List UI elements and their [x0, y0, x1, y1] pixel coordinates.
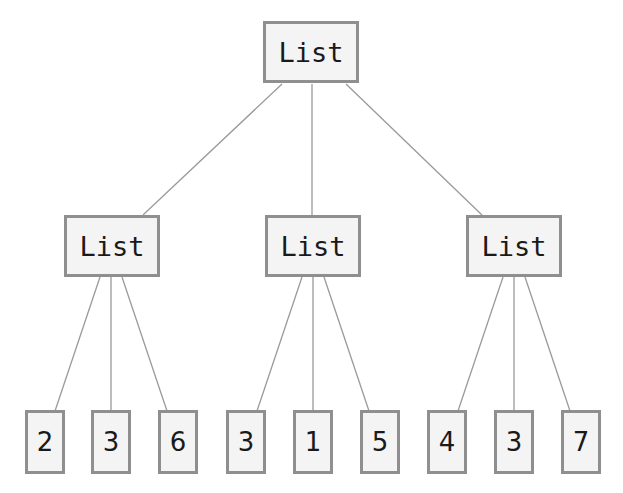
- leaf-node-3-2: 3: [494, 410, 534, 474]
- leaf-node-2-2: 1: [293, 410, 333, 474]
- list-node-1: List: [64, 215, 160, 277]
- list-node-3: List: [466, 215, 562, 277]
- list-node-2: List: [265, 215, 361, 277]
- tree-diagram: List List List List 2 3 6 3 1 5 4 3 7: [0, 0, 623, 493]
- edge-list-3-to-leaf-1: [458, 277, 503, 411]
- leaf-node-1-1: 2: [25, 410, 65, 474]
- edge-list-3-to-leaf-3: [525, 277, 570, 411]
- leaf-node-1-3: 6: [158, 410, 198, 474]
- edge-list-1-to-leaf-1: [55, 277, 100, 411]
- leaf-node-3-1: 4: [427, 410, 467, 474]
- edge-root-to-list-3: [346, 84, 482, 215]
- leaf-node-2-1: 3: [226, 410, 266, 474]
- edge-list-2-to-leaf-3: [324, 277, 369, 411]
- leaf-node-2-3: 5: [360, 410, 400, 474]
- edge-list-2-to-leaf-1: [257, 277, 302, 411]
- leaf-node-1-2: 3: [91, 410, 131, 474]
- root-list-node: List: [263, 21, 359, 83]
- edge-list-1-to-leaf-3: [122, 277, 167, 411]
- edge-root-to-list-1: [143, 84, 282, 215]
- leaf-node-3-3: 7: [561, 410, 601, 474]
